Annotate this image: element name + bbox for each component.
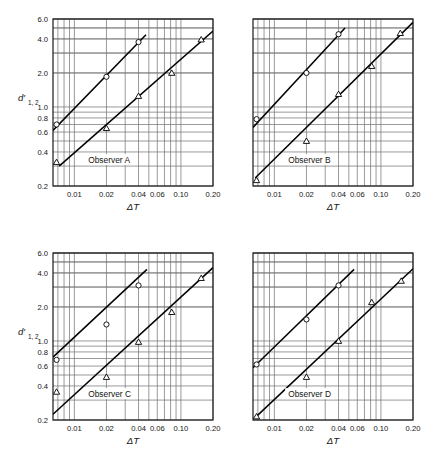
x-axis-title: ΔT [326,435,340,446]
series-triangles [53,31,213,166]
observer-label: Observer B [288,155,331,165]
data-point-triangle [135,339,141,344]
data-point-circle [304,70,309,75]
x-tick-label: 0.01 [67,424,82,433]
y-axis-title-subscript: 1, 2 [28,333,39,340]
x-tick-label: 0.02 [99,424,114,433]
data-point-circle [104,322,109,327]
panel-observer-d: 0.010.020.040.060.100.20ΔTObserver D [222,234,443,468]
x-tick-label: 0.01 [67,190,82,199]
y-tick-label: 0.4 [37,148,48,157]
fit-line [53,35,146,131]
x-tick-label: 0.01 [267,424,282,433]
fit-line [53,269,147,357]
x-tick-label: 0.10 [374,190,389,199]
y-tick-label: 2.0 [37,303,48,312]
series-circles [53,35,146,131]
x-tick-label: 0.20 [206,190,221,199]
plot-area-observer-c: 0.010.020.040.060.100.20ΔT6.04.02.01.00.… [0,234,221,468]
x-tick-label: 0.20 [406,424,421,433]
y-tick-label: 0.2 [37,416,48,425]
panel-observer-b: 0.010.020.040.060.100.20ΔTObserver B [222,0,443,234]
plot-area-observer-d: 0.010.020.040.060.100.20ΔTObserver D [222,234,443,468]
x-tick-label: 0.04 [131,190,146,199]
panel-observer-c: 0.010.020.040.060.100.20ΔT6.04.02.01.00.… [0,234,221,468]
y-axis-title: d′ [18,92,26,103]
data-point-triangle [253,177,259,182]
y-tick-label: 0.6 [37,362,48,371]
observer-label: Observer D [288,389,331,399]
y-tick-label: 6.0 [37,15,48,24]
y-tick-label: 0.6 [37,128,48,137]
x-tick-label: 0.04 [131,424,146,433]
x-tick-label: 0.02 [99,190,114,199]
x-tick-label: 0.06 [350,190,365,199]
data-point-circle [254,362,259,367]
plot-area-observer-b: 0.010.020.040.060.100.20ΔTObserver B [222,0,443,234]
data-point-circle [136,283,141,288]
observer-label: Observer C [88,389,131,399]
x-tick-label: 0.10 [374,424,389,433]
figure-container: 0.010.020.040.060.100.20ΔT6.04.02.01.00.… [0,0,443,468]
x-axis-title: ΔT [126,435,140,446]
y-tick-label: 0.8 [37,114,48,123]
y-tick-label: 4.0 [37,269,48,278]
data-point-circle [304,317,309,322]
data-point-circle [54,122,59,127]
y-tick-label: 0.4 [37,382,48,391]
y-axis-title-subscript: 1, 2 [28,99,39,106]
x-tick-label: 0.10 [174,424,189,433]
x-tick-label: 0.20 [206,424,221,433]
y-tick-label: 6.0 [37,249,48,258]
plot-area-observer-a: 0.010.020.040.060.100.20ΔT6.04.02.01.00.… [0,0,221,234]
x-tick-label: 0.06 [150,424,165,433]
x-tick-label: 0.10 [174,190,189,199]
x-axis-title: ΔT [326,201,340,212]
y-tick-label: 1.0 [37,103,48,112]
data-point-circle [54,357,59,362]
y-tick-label: 2.0 [37,69,48,78]
x-tick-label: 0.04 [331,424,346,433]
data-point-circle [254,117,259,122]
panel-observer-a: 0.010.020.040.060.100.20ΔT6.04.02.01.00.… [0,0,221,234]
y-axis-title: d′ [18,326,26,337]
data-point-circle [336,283,341,288]
x-tick-label: 0.06 [350,424,365,433]
series-circles [53,269,147,362]
x-tick-label: 0.06 [150,190,165,199]
series-circles [253,269,354,367]
y-tick-label: 0.2 [37,182,48,191]
x-tick-label: 0.20 [406,190,421,199]
data-point-circle [336,32,341,37]
observer-label: Observer A [88,155,130,165]
data-point-triangle [169,309,175,314]
x-tick-label: 0.04 [331,190,346,199]
data-point-circle [136,39,141,44]
x-tick-label: 0.02 [299,424,314,433]
data-point-triangle [53,159,59,164]
y-tick-label: 1.0 [37,337,48,346]
data-point-triangle [53,389,59,394]
data-point-circle [104,74,109,79]
x-tick-label: 0.01 [267,190,282,199]
y-tick-label: 0.8 [37,348,48,357]
y-tick-label: 4.0 [37,35,48,44]
x-axis-title: ΔT [126,201,140,212]
data-point-triangle [369,299,375,304]
x-tick-label: 0.02 [299,190,314,199]
